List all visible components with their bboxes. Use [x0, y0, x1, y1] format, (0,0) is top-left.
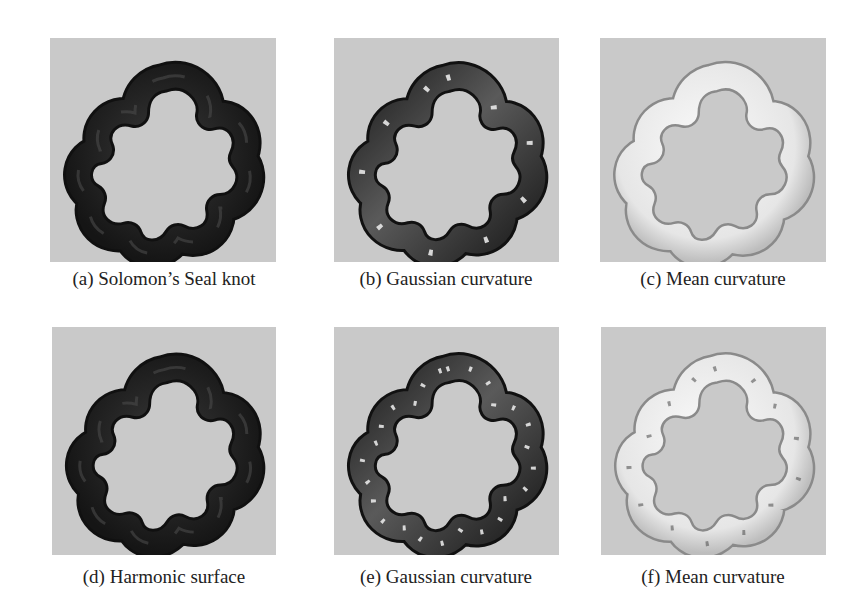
- solomon-seal-knot-render: [50, 38, 276, 262]
- caption-a: (a) Solomon’s Seal knot: [44, 268, 284, 290]
- caption-c: (c) Mean curvature: [593, 268, 833, 290]
- panel-f-image: [601, 327, 826, 555]
- panel-d-image: [52, 327, 276, 555]
- caption-f: (f) Mean curvature: [593, 566, 833, 588]
- mean-curvature-knot-render: [600, 38, 826, 262]
- panel-a-image: [50, 38, 276, 262]
- panel-e-image: [334, 327, 559, 555]
- panel-c-image: [600, 38, 826, 262]
- gaussian-curvature-knot-render: [334, 38, 559, 262]
- gaussian-curvature-harmonic-render: [334, 327, 559, 555]
- caption-b: (b) Gaussian curvature: [326, 268, 566, 290]
- caption-d: (d) Harmonic surface: [44, 566, 284, 588]
- panel-b-image: [334, 38, 559, 262]
- caption-e: (e) Gaussian curvature: [326, 566, 566, 588]
- mean-curvature-harmonic-render: [601, 327, 826, 555]
- harmonic-surface-knot-render: [52, 327, 276, 555]
